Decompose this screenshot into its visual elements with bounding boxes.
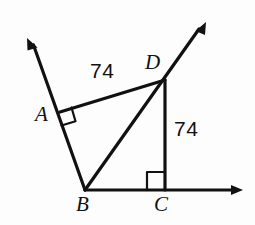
vertex-label-d: D: [145, 52, 160, 73]
measure-label-dc: 74: [174, 118, 198, 139]
vertex-label-c: C: [154, 194, 168, 215]
vertex-label-b: B: [76, 194, 89, 215]
right-angle-mark-c: [147, 172, 165, 190]
vertex-label-a: A: [35, 104, 48, 125]
ray-bc-arrowhead: [231, 185, 243, 195]
ray-bd: [85, 22, 206, 190]
measure-label-ad: 74: [90, 60, 114, 81]
ray-bd-line: [85, 29, 199, 190]
geometry-figure: A B C D 74 74: [0, 0, 255, 225]
segment-ad: [60, 80, 165, 112]
